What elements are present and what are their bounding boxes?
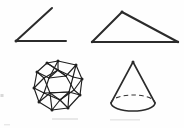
cone-apex-dot [132, 61, 135, 64]
angle-vertex-dot [15, 40, 18, 43]
shapes-canvas [0, 0, 184, 128]
triangle-outline [92, 12, 178, 42]
polyhedron-vertex [75, 64, 78, 67]
polyhedron-vertex [59, 99, 62, 102]
polyhedron-strut-7 [39, 93, 50, 102]
left-edge-speck [1, 94, 4, 97]
shape-polyhedron [33, 60, 84, 112]
bottom-smudge-corner [4, 124, 10, 125]
polyhedron-mid-band [44, 92, 69, 93]
bottom-smudge-right [110, 119, 140, 121]
polyhedron-vertex [36, 71, 39, 74]
bottom-smudge-left [52, 118, 78, 120]
polyhedron-vertex [57, 60, 60, 63]
polyhedron-cross-10 [60, 100, 68, 108]
triangle-apex-dot [121, 11, 124, 14]
polyhedron-vertex [81, 78, 84, 81]
polyhedron-cross-9 [52, 100, 60, 110]
triangle-base-left-dot [91, 41, 93, 43]
polyhedron-vertex [51, 109, 54, 112]
polyhedron-vertex [43, 92, 45, 94]
triangle-base-right-dot [177, 41, 179, 43]
cone-left-slant [111, 62, 133, 103]
shape-angle [15, 8, 67, 43]
cone-base-front-arc [111, 103, 155, 111]
polyhedron-mid-band-3 [60, 92, 69, 100]
polyhedron-vertex [79, 94, 82, 97]
cone-right-slant [133, 62, 155, 103]
geometry-figure-sheet: Geometry shapes worksheet figure [0, 0, 184, 128]
polyhedron-vertex [38, 101, 41, 104]
polyhedron-vertex [67, 107, 70, 110]
shape-cone [111, 61, 155, 112]
polyhedron-vertex [46, 62, 49, 65]
angle-rays [16, 8, 66, 41]
shape-triangle [91, 11, 179, 44]
cone-base-hidden-arc [111, 95, 155, 103]
polyhedron-vertex [33, 87, 36, 90]
